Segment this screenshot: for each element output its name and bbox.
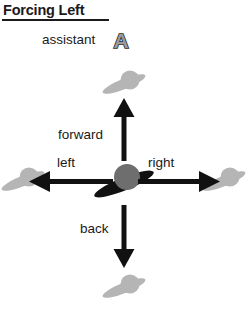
screenshot-canvas: Forcing Left assistant A	[0, 0, 249, 317]
arrow-right-icon	[138, 171, 220, 192]
arrow-back-icon	[114, 205, 135, 268]
arrow-forward-icon	[114, 98, 135, 161]
arrow-left-icon	[29, 171, 113, 192]
arrows-layer	[0, 0, 249, 317]
